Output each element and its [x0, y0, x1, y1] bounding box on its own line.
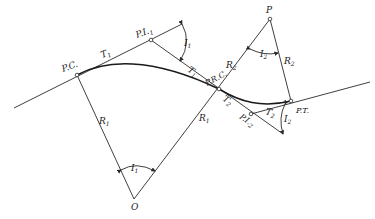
pi2-point — [249, 112, 253, 116]
label-t1-forward: T1 — [185, 64, 199, 79]
compound-curve-diagram: P.C. P.I.1 P.R.C. P.I.2 P.T. O P T1 T1 T… — [0, 0, 375, 219]
label-pc: P.C. — [59, 59, 79, 74]
curve-1 — [77, 64, 219, 89]
p-point — [268, 17, 272, 21]
label-i2-p: I2 — [259, 49, 268, 60]
pi1-point — [149, 38, 153, 42]
label-o: O — [131, 202, 139, 212]
label-t2-forward: T2 — [264, 106, 277, 119]
label-t1-back: T1 — [99, 47, 112, 61]
radius-r1-prc — [134, 19, 270, 199]
pc-point — [75, 73, 79, 77]
label-i1-pi1: I1 — [183, 38, 191, 49]
label-prc: P.R.C. — [203, 69, 229, 88]
label-pi2: P.I.2 — [236, 112, 256, 130]
label-p: P — [265, 5, 273, 15]
label-r1-prc: R1 — [198, 113, 210, 124]
prc-point — [217, 87, 221, 91]
back-tangent-line — [14, 24, 182, 108]
label-i2-pi2: I2 — [283, 114, 292, 125]
label-i1-o: I1 — [130, 163, 138, 174]
label-r2-left: R2 — [225, 60, 237, 71]
label-r2-right: R2 — [283, 56, 295, 67]
label-pt: P.T. — [295, 106, 309, 115]
label-r1-pc: R1 — [98, 116, 110, 127]
pt-point — [289, 99, 293, 103]
radius-r1-pc — [77, 75, 134, 199]
